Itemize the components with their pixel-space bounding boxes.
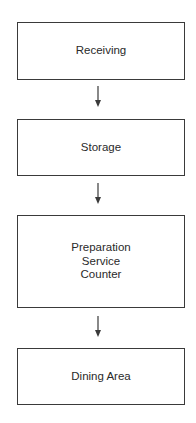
node-dining-label: Dining Area (71, 370, 130, 384)
node-preparation-service-counter: Preparation Service Counter (17, 215, 185, 308)
arrow-down-icon (93, 183, 103, 205)
node-storage: Storage (17, 119, 185, 176)
arrow-down-icon (93, 316, 103, 338)
node-dining-area: Dining Area (17, 348, 185, 405)
arrow-down-icon (93, 86, 103, 108)
node-preparation-label-line2: Service (71, 255, 130, 269)
node-preparation-label-line1: Preparation (71, 241, 130, 255)
node-receiving-label: Receiving (76, 44, 127, 58)
node-storage-label: Storage (81, 141, 121, 155)
node-preparation-label-line3: Counter (71, 268, 130, 282)
node-receiving: Receiving (17, 22, 185, 80)
